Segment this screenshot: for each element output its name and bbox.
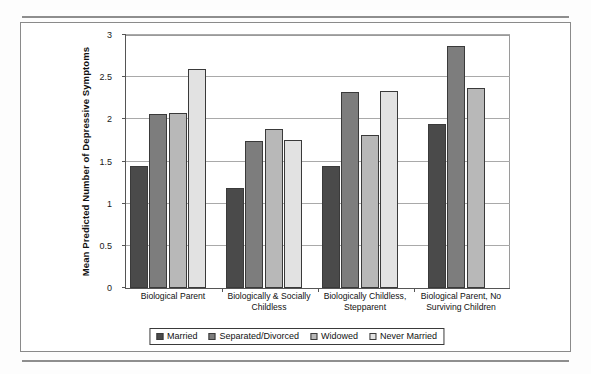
y-axis-tick-label: 0 [107,283,112,293]
legend-swatch-icon [369,333,376,340]
bar [188,69,206,288]
legend-label: Never Married [380,331,437,341]
bar-groups [126,35,510,288]
bar [226,188,244,288]
y-axis-tick-label: 1.5 [99,157,112,167]
figure-page: Mean Predicted Number of Depressive Symp… [0,0,591,374]
bar [265,129,283,288]
bar [322,166,340,288]
x-axis-category-label: Biologically & Socially Childless [217,291,321,313]
y-axis-tick-label: 2 [107,114,112,124]
figure-frame: Mean Predicted Number of Depressive Symp… [20,22,571,352]
legend-label: Married [167,331,198,341]
legend-label: Separated/Divorced [219,331,299,341]
top-rule [22,16,569,18]
legend-item[interactable]: Never Married [369,331,437,341]
legend-swatch-icon [310,333,317,340]
bar-chart: Mean Predicted Number of Depressive Symp… [21,23,572,353]
plot-area: 00.511.522.53 [125,35,510,289]
legend-item[interactable]: Separated/Divorced [208,331,299,341]
chart-legend: MarriedSeparated/DivorcedWidowedNever Ma… [149,328,444,345]
bar-group [414,35,510,288]
bar [341,92,359,288]
x-axis-category-label: Biologically Childless, Stepparent [313,291,417,313]
x-axis-category-label: Biological Parent [121,291,225,302]
legend-item[interactable]: Widowed [310,331,358,341]
legend-swatch-icon [156,333,163,340]
x-axis-category-label: Biological Parent, No Surviving Children [409,291,513,313]
bar [467,88,485,288]
running-head [0,0,591,2]
bar [428,124,446,288]
bar-group [222,35,318,288]
bar [284,140,302,288]
bar [380,91,398,288]
y-axis-tick-label: 0.5 [99,241,112,251]
y-axis-title-text: Mean Predicted Number of Depressive Symp… [81,47,92,276]
y-axis-tick-label: 1 [107,199,112,209]
legend-item[interactable]: Married [156,331,198,341]
x-axis-category-labels: Biological ParentBiologically & Socially… [125,291,509,325]
bottom-rule [22,360,569,362]
bar [169,113,187,288]
bar [130,166,148,288]
bar [245,141,263,288]
y-axis-title: Mean Predicted Number of Depressive Symp… [79,35,93,288]
bar [361,135,379,288]
legend-swatch-icon [208,333,215,340]
bar-group [126,35,222,288]
bar [149,114,167,288]
bar-group [318,35,414,288]
y-axis-tick-label: 3 [107,30,112,40]
y-axis-tick-label: 2.5 [99,72,112,82]
legend-label: Widowed [321,331,358,341]
bar [447,46,465,288]
